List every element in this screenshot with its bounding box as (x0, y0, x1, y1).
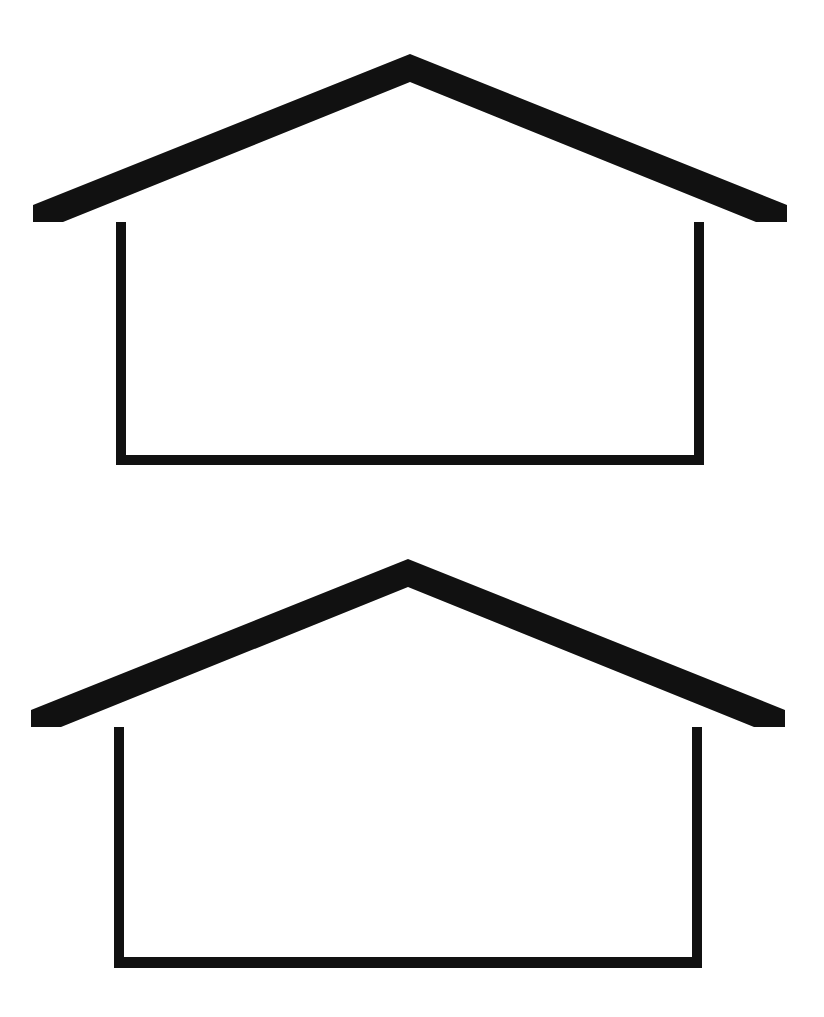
house-figure-top-panel (0, 0, 824, 508)
house-diagram-top (0, 0, 824, 508)
house-diagram-bottom (0, 508, 824, 1017)
house-figure-bottom-panel (0, 508, 824, 1017)
figure-sheet (0, 0, 824, 1017)
